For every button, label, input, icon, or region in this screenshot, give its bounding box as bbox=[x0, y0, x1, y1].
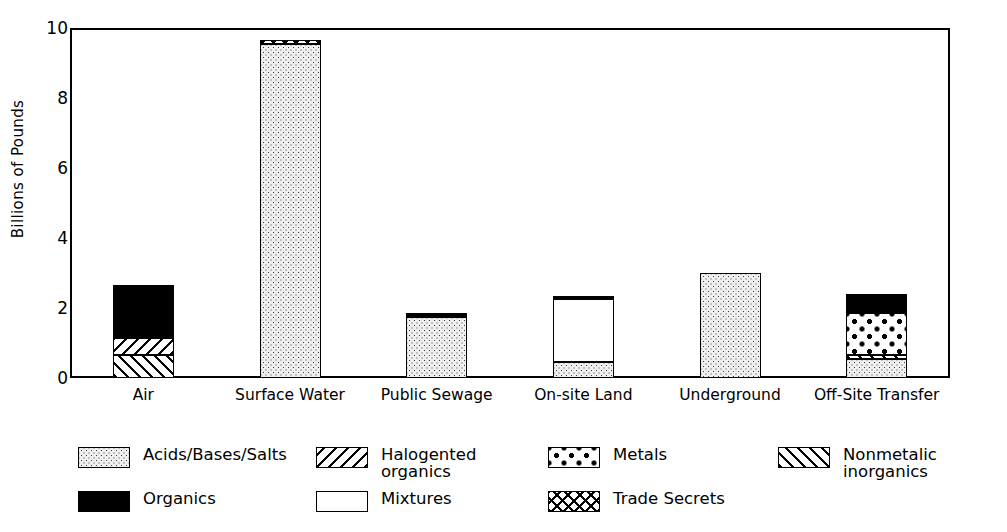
chart-figure: Billions of Pounds 0246810 AirSurface Wa… bbox=[0, 0, 1007, 532]
legend-label: Halogented organics bbox=[381, 446, 476, 481]
legend-item-nonmetalic-inorganics[interactable]: Nonmetalic inorganics bbox=[778, 446, 983, 481]
legend-label: Organics bbox=[143, 490, 216, 507]
y-tick-label: 8 bbox=[46, 90, 68, 107]
bar-segment-nonmetal bbox=[846, 355, 907, 359]
bar-segment-nonmetal bbox=[113, 355, 174, 378]
bar-underground bbox=[700, 273, 761, 378]
legend-label: Nonmetalic inorganics bbox=[843, 446, 983, 481]
x-tick-label-on-site-land: On-site Land bbox=[534, 386, 632, 404]
x-tick-label-air: Air bbox=[133, 386, 154, 404]
legend-swatch-coarse-dots-icon bbox=[548, 447, 600, 468]
bars-layer bbox=[70, 28, 950, 378]
legend-swatch-fine-dots-icon bbox=[78, 447, 130, 468]
bar-segment-acids bbox=[846, 359, 907, 378]
y-axis-label: Billions of Pounds bbox=[9, 0, 27, 369]
x-tick-label-underground: Underground bbox=[679, 386, 780, 404]
bar-segment-acids bbox=[260, 44, 321, 378]
x-tick-label-surface-water: Surface Water bbox=[235, 386, 345, 404]
legend-label: Trade Secrets bbox=[613, 490, 725, 507]
bar-air bbox=[113, 285, 174, 378]
bar-segment-organics bbox=[406, 313, 467, 317]
bar-segment-acids bbox=[700, 273, 761, 378]
y-tick-label: 10 bbox=[46, 20, 68, 37]
legend-label: Acids/Bases/Salts bbox=[143, 446, 287, 463]
bar-on-site-land bbox=[553, 296, 614, 378]
y-tick-label: 4 bbox=[46, 230, 68, 247]
bar-segment-trade bbox=[260, 40, 321, 44]
bar-segment-acids bbox=[406, 317, 467, 378]
bar-segment-acids bbox=[553, 362, 614, 378]
bar-segment-organics bbox=[846, 294, 907, 313]
legend-swatch-solid-black-icon bbox=[78, 491, 130, 512]
legend-item-halogented-organics[interactable]: Halogented organics bbox=[316, 446, 476, 481]
chart-legend: Acids/Bases/SaltsOrganicsHalogented orga… bbox=[78, 446, 983, 524]
bar-segment-mixtures bbox=[553, 299, 614, 361]
legend-item-trade-secrets[interactable]: Trade Secrets bbox=[548, 490, 725, 512]
x-tick-label-off-site-transfer: Off-Site Transfer bbox=[814, 386, 939, 404]
x-tick-label-public-sewage: Public Sewage bbox=[381, 386, 493, 404]
legend-label: Metals bbox=[613, 446, 667, 463]
bar-public-sewage bbox=[406, 313, 467, 378]
bar-segment-organics bbox=[553, 296, 614, 300]
legend-label: Mixtures bbox=[381, 490, 452, 507]
bar-off-site-transfer bbox=[846, 294, 907, 378]
legend-item-acids-bases-salts[interactable]: Acids/Bases/Salts bbox=[78, 446, 287, 468]
legend-swatch-cross-hatch-icon bbox=[548, 491, 600, 512]
legend-item-metals[interactable]: Metals bbox=[548, 446, 667, 468]
legend-item-organics[interactable]: Organics bbox=[78, 490, 216, 512]
bar-surface-water bbox=[260, 40, 321, 378]
legend-swatch-white-icon bbox=[316, 491, 368, 512]
y-tick-label: 6 bbox=[46, 160, 68, 177]
legend-swatch-forward-hatch-icon bbox=[778, 447, 830, 468]
bar-segment-metals bbox=[846, 313, 907, 355]
bar-segment-halo bbox=[113, 338, 174, 356]
y-tick-label: 2 bbox=[46, 300, 68, 317]
bar-segment-organics bbox=[113, 285, 174, 338]
legend-swatch-backslash-hatch-icon bbox=[316, 447, 368, 468]
y-tick-label: 0 bbox=[46, 370, 68, 387]
legend-item-mixtures[interactable]: Mixtures bbox=[316, 490, 452, 512]
